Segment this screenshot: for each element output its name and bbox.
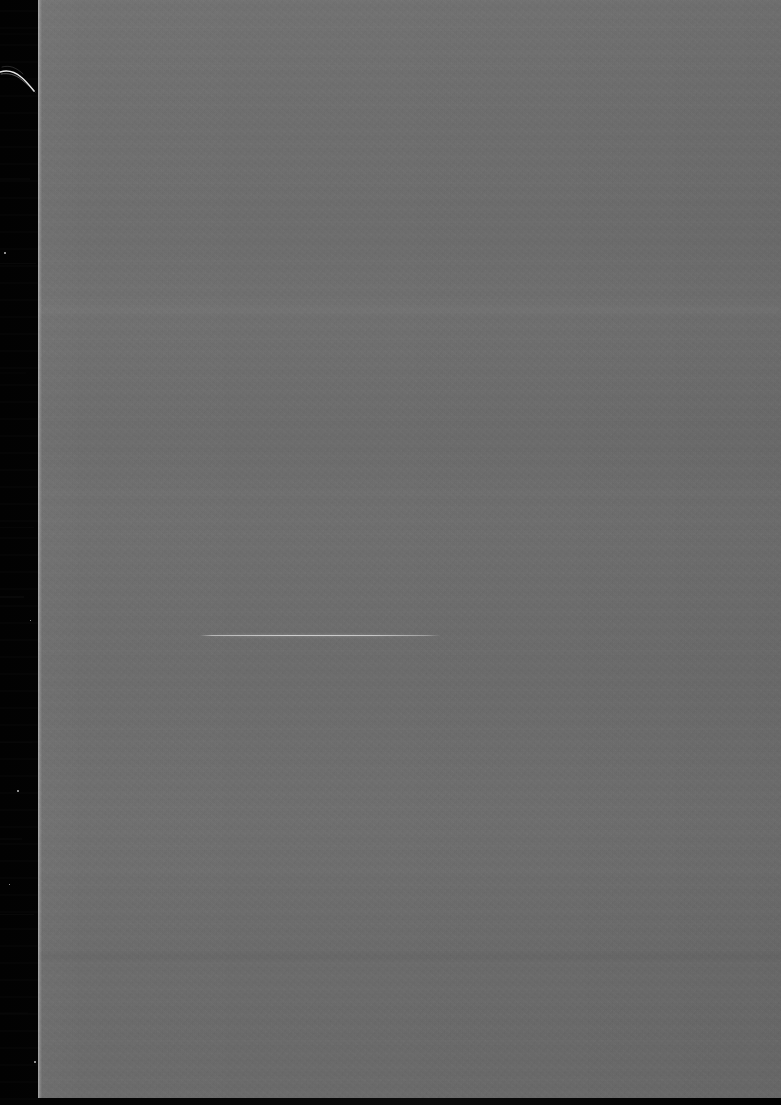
scanner-bed-band <box>0 596 24 598</box>
scanner-bed-band <box>0 372 26 374</box>
scanner-bed-band <box>0 914 34 915</box>
scanner-bed-band <box>0 33 40 35</box>
scanner-bed-band <box>0 742 32 743</box>
scanner-bed-band <box>0 527 34 528</box>
scanner-bed-band <box>0 838 22 840</box>
paper-horizontal-shading <box>38 0 781 1098</box>
paper-grain-texture <box>38 0 781 1098</box>
paper-tonal-band <box>38 306 781 312</box>
scanner-bed-streaks <box>0 0 40 1105</box>
scanner-bed-band <box>0 1012 28 1014</box>
paper-vertical-shading <box>38 0 781 1098</box>
paper-tonal-band <box>38 952 781 960</box>
scanned-paper-sheet <box>38 0 781 1098</box>
scanned-page-viewport <box>0 0 781 1105</box>
scanner-bed-band <box>0 178 30 180</box>
paper-scan-banding <box>38 0 781 1098</box>
scanner-bed-band <box>0 263 36 264</box>
paper-tonal-band <box>38 866 781 871</box>
paper-tonal-band <box>38 489 781 494</box>
